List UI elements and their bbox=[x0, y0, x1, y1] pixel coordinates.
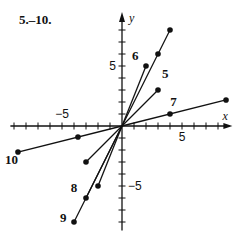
vector-endpoint-dot bbox=[223, 97, 229, 103]
vector-line bbox=[74, 126, 122, 222]
vector-endpoint-dot bbox=[167, 111, 173, 117]
vector-number-label: 7 bbox=[170, 94, 177, 109]
x-axis-label: x bbox=[221, 109, 228, 123]
y-tick-label: 5 bbox=[109, 59, 116, 73]
vector-line bbox=[122, 90, 158, 126]
x-tick-label: −5 bbox=[55, 107, 69, 121]
vector-endpoint-dot bbox=[71, 219, 77, 225]
y-axis-label: y bbox=[128, 11, 135, 25]
x-tick-label: 5 bbox=[179, 130, 186, 144]
x-axis-arrow-icon bbox=[223, 123, 232, 129]
y-tick-label: −5 bbox=[128, 179, 142, 193]
vector-endpoint-dot bbox=[75, 134, 81, 140]
vector-endpoint-dot bbox=[155, 51, 161, 57]
vector-line bbox=[98, 126, 122, 186]
vector-number-label: 10 bbox=[5, 152, 18, 167]
vector-diagram: 5.–10. xy−555−55689710 bbox=[0, 0, 245, 238]
labels-group: xy−555−55689710 bbox=[5, 11, 228, 225]
vector-number-label: 6 bbox=[132, 48, 139, 63]
vector-endpoint-dot bbox=[155, 87, 161, 93]
coordinate-axes bbox=[10, 12, 232, 230]
vector-line bbox=[122, 66, 146, 126]
problem-number-title: 5.–10. bbox=[19, 12, 52, 27]
vector-number-label: 8 bbox=[71, 180, 78, 195]
vector-line bbox=[18, 126, 122, 152]
vector-endpoint-dot bbox=[167, 27, 173, 33]
y-axis-arrow-icon bbox=[119, 12, 125, 22]
vector-endpoint-dot bbox=[95, 183, 101, 189]
vector-number-label: 5 bbox=[162, 66, 169, 81]
vector-line bbox=[86, 126, 122, 162]
vector-endpoint-dot bbox=[143, 63, 149, 69]
vector-number-label: 9 bbox=[60, 210, 67, 225]
vector-endpoint-dot bbox=[83, 159, 89, 165]
